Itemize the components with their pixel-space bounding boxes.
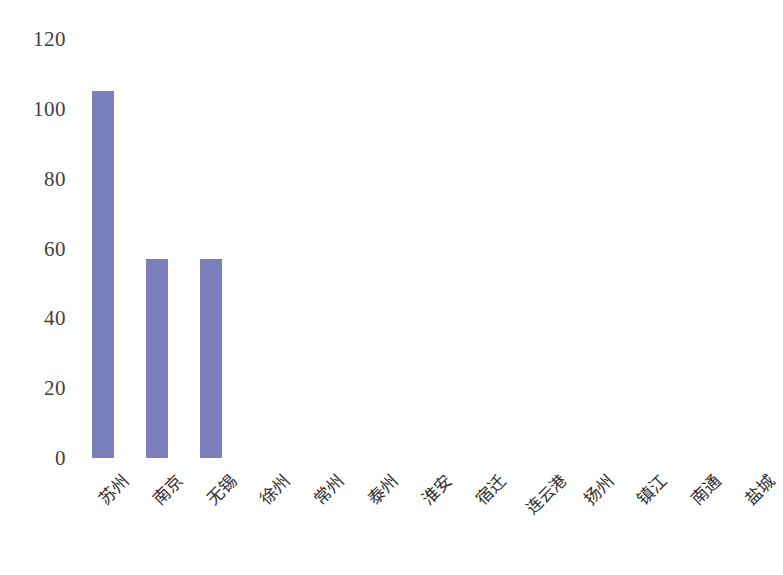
y-axis: 120100806040200 bbox=[0, 0, 76, 575]
x-axis-label-slot: 常州 bbox=[291, 472, 345, 572]
y-axis-tick-label: 100 bbox=[33, 98, 66, 119]
x-axis-label-slot: 宿迁 bbox=[453, 472, 507, 572]
bar-slot bbox=[184, 39, 238, 458]
x-axis-tick-label: 徐州 bbox=[257, 472, 294, 509]
bar-slot bbox=[291, 39, 345, 458]
x-axis-label-slot: 连云港 bbox=[507, 472, 561, 572]
x-axis-label-slot: 盐城 bbox=[722, 472, 776, 572]
bar-slot bbox=[238, 39, 292, 458]
bar[interactable] bbox=[146, 259, 168, 458]
bar-slot bbox=[507, 39, 561, 458]
y-axis-tick-label: 0 bbox=[55, 448, 66, 469]
bar[interactable] bbox=[200, 259, 222, 458]
bar-chart: 120100806040200 苏州南京无锡徐州常州泰州淮安宿迁连云港扬州镇江南… bbox=[0, 0, 783, 575]
x-axis-tick-label: 苏州 bbox=[96, 472, 133, 509]
x-axis-label-slot: 南通 bbox=[668, 472, 722, 572]
bar-slot bbox=[345, 39, 399, 458]
bar-slot bbox=[722, 39, 776, 458]
bar-slot bbox=[130, 39, 184, 458]
x-axis-label-slot: 淮安 bbox=[399, 472, 453, 572]
x-axis-tick-label: 常州 bbox=[311, 472, 348, 509]
x-axis: 苏州南京无锡徐州常州泰州淮安宿迁连云港扬州镇江南通盐城 bbox=[76, 458, 776, 575]
x-axis-label-slot: 泰州 bbox=[345, 472, 399, 572]
x-axis-label-slot: 苏州 bbox=[76, 472, 130, 572]
x-axis-label-slot: 南京 bbox=[130, 472, 184, 572]
x-axis-tick-label: 盐城 bbox=[742, 472, 779, 509]
y-axis-tick-label: 40 bbox=[44, 308, 66, 329]
y-axis-tick-label: 20 bbox=[44, 378, 66, 399]
y-axis-tick-label: 120 bbox=[33, 29, 66, 50]
x-axis-tick-label: 镇江 bbox=[634, 472, 671, 509]
x-axis-tick-label: 淮安 bbox=[419, 472, 456, 509]
bar-slot bbox=[76, 39, 130, 458]
bar-slot bbox=[668, 39, 722, 458]
plot-area bbox=[76, 39, 776, 458]
x-axis-tick-label: 宿迁 bbox=[473, 472, 510, 509]
bar-slot bbox=[614, 39, 668, 458]
y-axis-tick-label: 60 bbox=[44, 238, 66, 259]
x-axis-label-slot: 无锡 bbox=[184, 472, 238, 572]
y-axis-tick-label: 80 bbox=[44, 168, 66, 189]
x-axis-tick-label: 泰州 bbox=[365, 472, 402, 509]
x-axis-label-slot: 扬州 bbox=[561, 472, 615, 572]
x-axis-label-slot: 镇江 bbox=[614, 472, 668, 572]
x-axis-tick-label: 南通 bbox=[688, 472, 725, 509]
bar-slot bbox=[561, 39, 615, 458]
bar-slot bbox=[453, 39, 507, 458]
bar-slot bbox=[399, 39, 453, 458]
x-axis-tick-label: 无锡 bbox=[204, 472, 241, 509]
x-axis-label-slot: 徐州 bbox=[238, 472, 292, 572]
x-axis-tick-label: 扬州 bbox=[580, 472, 617, 509]
x-axis-tick-label: 南京 bbox=[150, 472, 187, 509]
bar[interactable] bbox=[92, 91, 114, 458]
